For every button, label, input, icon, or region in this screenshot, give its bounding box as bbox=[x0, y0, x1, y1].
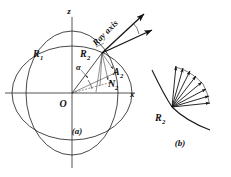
ray-axis-label: Ray axis bbox=[90, 17, 121, 48]
ray-angle-arc bbox=[133, 23, 139, 34]
R2-base: R bbox=[79, 48, 87, 59]
R1-subscript: 1 bbox=[40, 54, 43, 61]
fan-ray-5 bbox=[172, 82, 202, 107]
R2-subscript: 2 bbox=[86, 54, 91, 61]
figure-canvas: z x O R 1 R 2 A 2 N 2 bbox=[0, 0, 231, 177]
alpha-angle-label: α bbox=[76, 62, 81, 72]
panel-b-caption: (b) bbox=[175, 138, 186, 148]
panel-b-R2-base: R bbox=[154, 112, 162, 123]
panel-b-point-label-R2: R 2 bbox=[154, 112, 166, 125]
A2-subscript: 2 bbox=[119, 72, 124, 79]
fan-ray-4 bbox=[172, 76, 196, 107]
panel-b-group: R 2 (b) bbox=[152, 66, 210, 148]
A2-base: A bbox=[112, 66, 120, 77]
R2-secondary-line bbox=[96, 53, 102, 92]
R1-base: R bbox=[32, 48, 40, 59]
z-axis-label: z bbox=[66, 6, 71, 16]
panel-a-caption: (a) bbox=[72, 126, 83, 136]
panel-b-curve-lower bbox=[172, 107, 210, 130]
panel-b-curve-upper bbox=[152, 70, 172, 107]
x-axis-label: x bbox=[129, 89, 135, 99]
point-label-R2: R 2 bbox=[79, 48, 91, 61]
figure-root: z x O R 1 R 2 A 2 N 2 bbox=[0, 0, 231, 177]
origin-label: O bbox=[59, 98, 66, 109]
panel-b-R2-subscript: 2 bbox=[161, 118, 166, 125]
fan-arc-outer bbox=[203, 84, 209, 102]
panel-a-group: z x O R 1 R 2 A 2 N 2 bbox=[5, 6, 152, 168]
